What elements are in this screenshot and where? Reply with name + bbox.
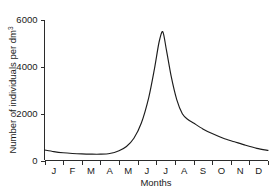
x-axis-tick-label: J <box>163 165 168 176</box>
x-axis-tick-label: J <box>51 165 56 176</box>
chart-canvas: 0200040006000 JFMAMJJASOND Months Number… <box>0 0 278 190</box>
population-line-chart: 0200040006000 JFMAMJJASOND Months Number… <box>0 0 278 190</box>
x-axis-tick-label: A <box>181 165 188 176</box>
y-axis-title-group: Number of individuals per dm3 <box>7 26 18 154</box>
y-axis-tick-label: 6000 <box>16 14 37 25</box>
x-axis-tick-label: M <box>124 165 132 176</box>
x-axis-tick-label: S <box>200 165 206 176</box>
x-axis-tick-label: M <box>87 165 95 176</box>
x-axis-title: Months <box>140 177 171 188</box>
x-axis-tick-label: F <box>70 165 76 176</box>
y-axis-tick-label: 4000 <box>16 61 37 72</box>
x-axis-tick-label: O <box>218 165 225 176</box>
x-axis-tick-label: A <box>107 165 114 176</box>
x-axis-tick-label: N <box>237 165 244 176</box>
x-axis-tick-label: J <box>145 165 150 176</box>
y-axis-tick-label: 0 <box>32 155 37 166</box>
y-axis-tick-label: 2000 <box>16 108 37 119</box>
y-axis-title: Number of individuals per dm3 <box>7 26 18 154</box>
x-axis-tick-label: D <box>255 165 262 176</box>
